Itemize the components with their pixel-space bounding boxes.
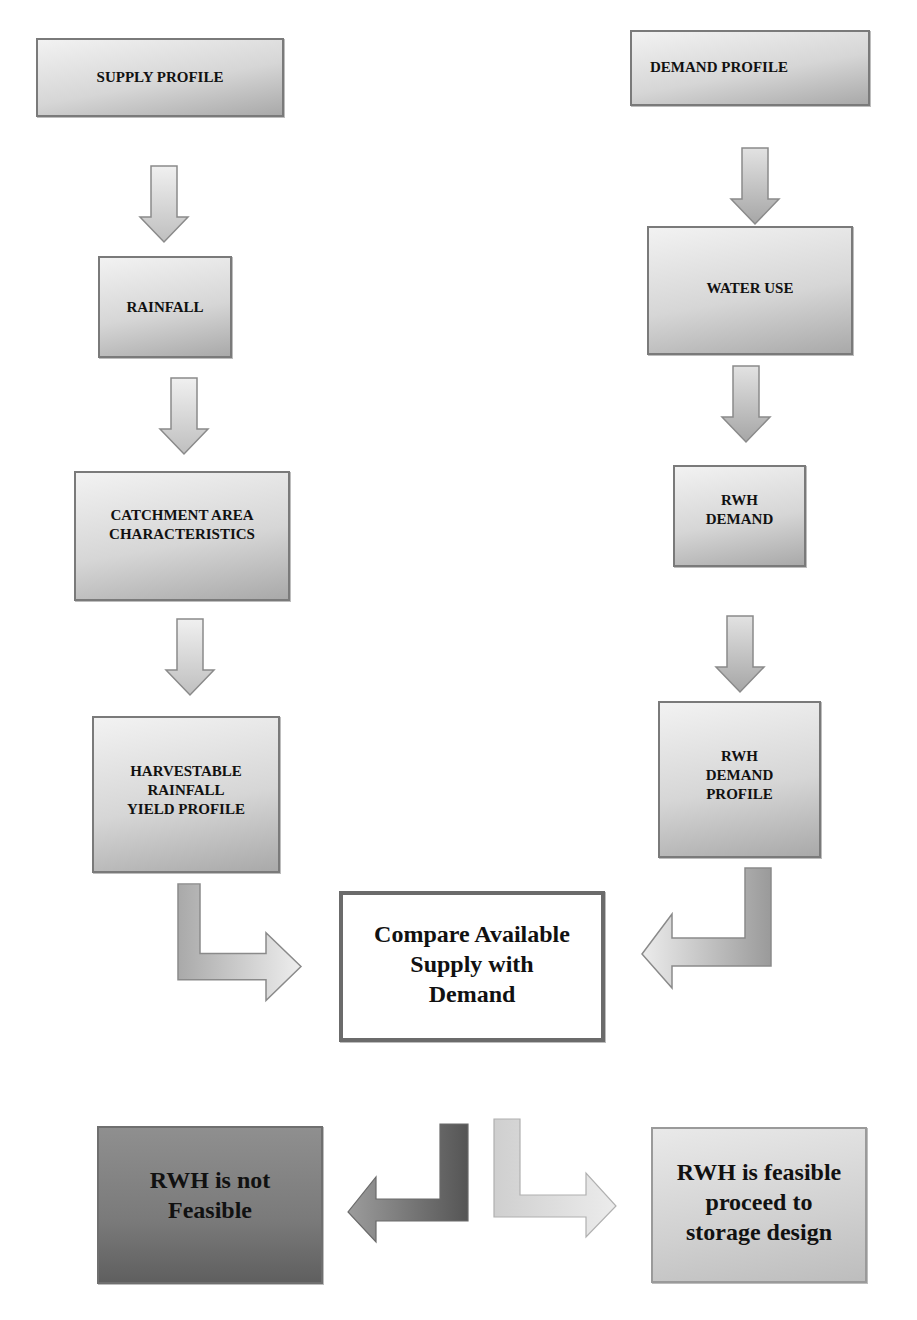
catchment-label: CATCHMENT AREA CHARACTERISTICS [109, 506, 255, 544]
water-use-label: WATER USE [707, 279, 794, 298]
demand-profile-label: DEMAND PROFILE [650, 58, 788, 77]
rwh-demand-profile-label: RWH DEMAND PROFILE [706, 747, 774, 803]
rainfall-box: RAINFALL [98, 256, 232, 358]
rainfall-label: RAINFALL [126, 298, 203, 317]
water-use-box: WATER USE [647, 226, 853, 355]
rwh-demand-profile-box: RWH DEMAND PROFILE [658, 701, 821, 858]
bent-arrow-right-icon [176, 882, 304, 1002]
down-arrow-icon [159, 377, 209, 455]
supply-profile-label: SUPPLY PROFILE [97, 68, 224, 87]
compare-label: Compare Available Supply with Demand [374, 919, 570, 1009]
rwh-feasible-box: RWH is feasible proceed to storage desig… [651, 1127, 867, 1283]
rwh-demand-label: RWH DEMAND [706, 491, 774, 529]
compare-supply-demand-box: Compare Available Supply with Demand [339, 891, 605, 1042]
not-feasible-label: RWH is not Feasible [150, 1165, 271, 1225]
catchment-box: CATCHMENT AREA CHARACTERISTICS [74, 471, 290, 601]
feasible-label: RWH is feasible proceed to storage desig… [677, 1157, 841, 1247]
down-arrow-icon [715, 615, 765, 693]
harvestable-yield-label: HARVESTABLE RAINFALL YIELD PROFILE [127, 762, 245, 818]
harvestable-yield-box: HARVESTABLE RAINFALL YIELD PROFILE [92, 716, 280, 873]
demand-profile-box: DEMAND PROFILE [630, 30, 870, 106]
bent-arrow-left-icon [640, 866, 774, 992]
bent-arrow-left-dark-icon [346, 1122, 472, 1244]
bent-arrow-right-light-icon [492, 1117, 620, 1241]
rwh-not-feasible-box: RWH is not Feasible [97, 1126, 323, 1284]
down-arrow-icon [139, 165, 189, 243]
down-arrow-icon [165, 618, 215, 696]
supply-profile-box: SUPPLY PROFILE [36, 38, 284, 117]
down-arrow-icon [721, 365, 771, 443]
rwh-demand-box: RWH DEMAND [673, 465, 806, 567]
down-arrow-icon [730, 147, 780, 225]
